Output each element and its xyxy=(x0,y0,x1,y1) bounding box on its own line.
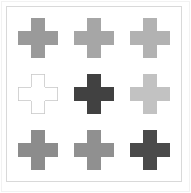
cross-grid-figure xyxy=(0,0,191,193)
cross-marker xyxy=(17,17,59,59)
cross-shape-cross-r2c2 xyxy=(74,74,113,113)
cross-marker xyxy=(129,73,171,115)
cross-shape-cross-r3c1 xyxy=(18,130,57,169)
cross-marker xyxy=(17,73,59,115)
cross-shape-cross-r2c1 xyxy=(18,74,57,113)
cross-shape-cross-r1c3 xyxy=(130,18,169,57)
cross-cell xyxy=(66,10,122,66)
cross-cell xyxy=(10,66,66,122)
cross-marker xyxy=(73,17,115,59)
figure-outer-frame xyxy=(1,1,190,192)
cross-cell xyxy=(10,122,66,178)
cross-marker xyxy=(73,73,115,115)
cross-grid xyxy=(7,7,181,181)
cross-shape-cross-r1c1 xyxy=(18,18,57,57)
cross-cell xyxy=(10,10,66,66)
cross-shape-cross-r3c2 xyxy=(74,130,113,169)
cross-marker xyxy=(17,129,59,171)
cross-shape-cross-r2c3 xyxy=(130,74,169,113)
cross-cell xyxy=(122,66,178,122)
cross-marker xyxy=(73,129,115,171)
cross-marker xyxy=(129,129,171,171)
cross-shape-cross-r3c3 xyxy=(130,130,169,169)
cross-cell xyxy=(122,122,178,178)
cross-cell xyxy=(66,122,122,178)
cross-cell xyxy=(122,10,178,66)
cross-shape-cross-r1c2 xyxy=(74,18,113,57)
figure-panel xyxy=(6,6,182,182)
cross-marker xyxy=(129,17,171,59)
cross-cell xyxy=(66,66,122,122)
